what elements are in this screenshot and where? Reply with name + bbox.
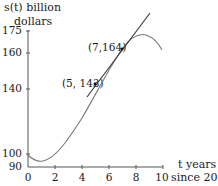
tangent-line <box>87 13 150 97</box>
point-5-143 <box>94 83 97 86</box>
point-7-164 <box>121 48 124 51</box>
curve-s-of-t <box>28 35 162 162</box>
plot-area <box>0 0 218 186</box>
